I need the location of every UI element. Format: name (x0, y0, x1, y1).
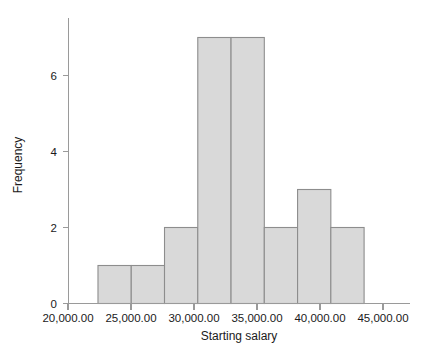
histogram-figure: 20,000.0025,000.0030,000.0035,000.0040,0… (0, 0, 442, 356)
y-axis: 0246 (51, 18, 69, 310)
y-tick-label: 2 (51, 222, 57, 234)
histogram-bar (165, 228, 198, 304)
x-tick-label: 40,000.00 (294, 312, 345, 324)
y-tick-group: 0246 (51, 70, 69, 310)
y-tick-label: 4 (51, 146, 58, 158)
y-tick-label: 6 (51, 70, 57, 82)
histogram-bar (198, 38, 231, 304)
x-tick-label: 20,000.00 (42, 312, 93, 324)
x-tick-label: 35,000.00 (231, 312, 282, 324)
x-tick-label: 45,000.00 (357, 312, 408, 324)
bars-group (98, 38, 364, 304)
y-tick-label: 0 (51, 298, 57, 310)
x-tick-label: 30,000.00 (168, 312, 219, 324)
histogram-bar (264, 228, 297, 304)
x-axis: 20,000.0025,000.0030,000.0035,000.0040,0… (42, 304, 410, 325)
histogram-bar (298, 190, 331, 304)
histogram-bar (131, 266, 164, 304)
x-tick-label: 25,000.00 (105, 312, 156, 324)
histogram-bar (231, 38, 264, 304)
x-axis-title: Starting salary (201, 329, 278, 343)
x-tick-group: 20,000.0025,000.0030,000.0035,000.0040,0… (42, 304, 408, 325)
y-axis-title: Frequency (11, 137, 25, 194)
histogram-bar (331, 228, 364, 304)
histogram-svg: 20,000.0025,000.0030,000.0035,000.0040,0… (0, 0, 442, 356)
histogram-bar (98, 266, 131, 304)
